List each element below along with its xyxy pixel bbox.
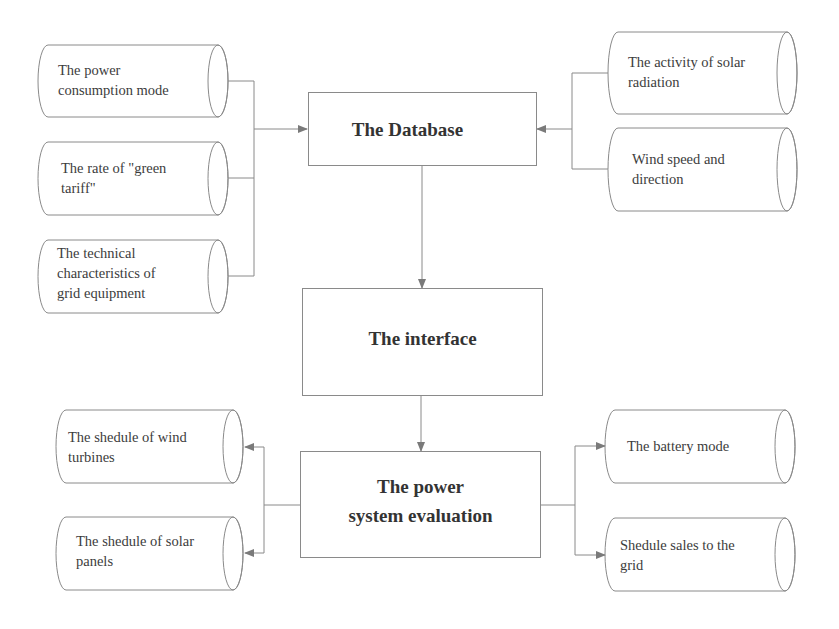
database-box: The Database <box>308 92 537 166</box>
output-left-2-text: The shedule of solar panels <box>76 531 194 571</box>
connector-evaluation-to-right-outputs <box>540 446 605 555</box>
input-right-1-text: The activity of solar radiation <box>628 52 745 92</box>
connector-evaluation-to-left-outputs <box>245 447 300 553</box>
evaluation-box: The power system evaluation <box>300 451 541 558</box>
input-right-2-text: Wind speed and direction <box>632 149 725 189</box>
output-right-1-text: The battery mode <box>627 436 729 456</box>
interface-label: The interface <box>368 324 476 353</box>
connector-left-inputs-to-database <box>228 81 307 276</box>
input-left-3-text: The technical characteristics of grid eq… <box>57 243 156 303</box>
interface-box: The interface <box>302 288 543 396</box>
output-right-2-text: Shedule sales to the grid <box>620 535 735 575</box>
connector-right-inputs-to-database <box>537 73 608 169</box>
database-label: The Database <box>352 115 463 144</box>
input-left-2-text: The rate of "green tariff" <box>61 158 166 198</box>
evaluation-label-line1: The power <box>377 472 464 501</box>
evaluation-label-line2: system evaluation <box>348 501 492 530</box>
output-left-1-text: The shedule of wind turbines <box>68 427 187 467</box>
input-left-1-text: The power consumption mode <box>58 60 169 100</box>
